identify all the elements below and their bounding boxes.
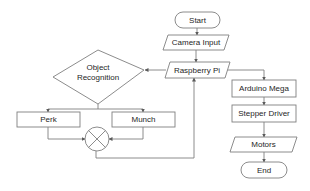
camera-input-label: Camera Input [172,38,221,47]
motors-label: Motors [251,140,275,149]
stepper-driver-label: Stepper Driver [238,109,290,118]
arduino-mega-label: Arduino Mega [239,84,289,93]
end-label: End [257,166,271,175]
raspberry-pi-node: Raspberry Pi [165,62,230,78]
stepper-driver-node: Stepper Driver [232,105,296,122]
edge-perk-merge [48,127,85,139]
start-label: Start [189,16,207,25]
merge-junction-node [85,127,109,151]
munch-node: Munch [112,112,175,127]
camera-input-node: Camera Input [163,35,229,50]
object-recognition-label-line1: Object [86,63,110,72]
arduino-mega-node: Arduino Mega [232,80,296,97]
object-recognition-label-line2: Recognition [77,73,119,82]
edge-munch-merge [109,127,143,139]
perk-label: Perk [40,115,57,124]
object-recognition-node: Object Recognition [53,50,144,104]
start-node: Start [175,12,220,28]
munch-label: Munch [131,115,155,124]
raspberry-pi-label: Raspberry Pi [174,66,220,75]
motors-node: Motors [230,137,297,152]
perk-node: Perk [17,112,80,127]
edge-recognition-perk [48,104,98,112]
end-node: End [241,162,287,178]
edge-pi-arduino [226,70,264,80]
flowchart-canvas: Start Camera Input Raspberry Pi Object R… [0,0,310,191]
